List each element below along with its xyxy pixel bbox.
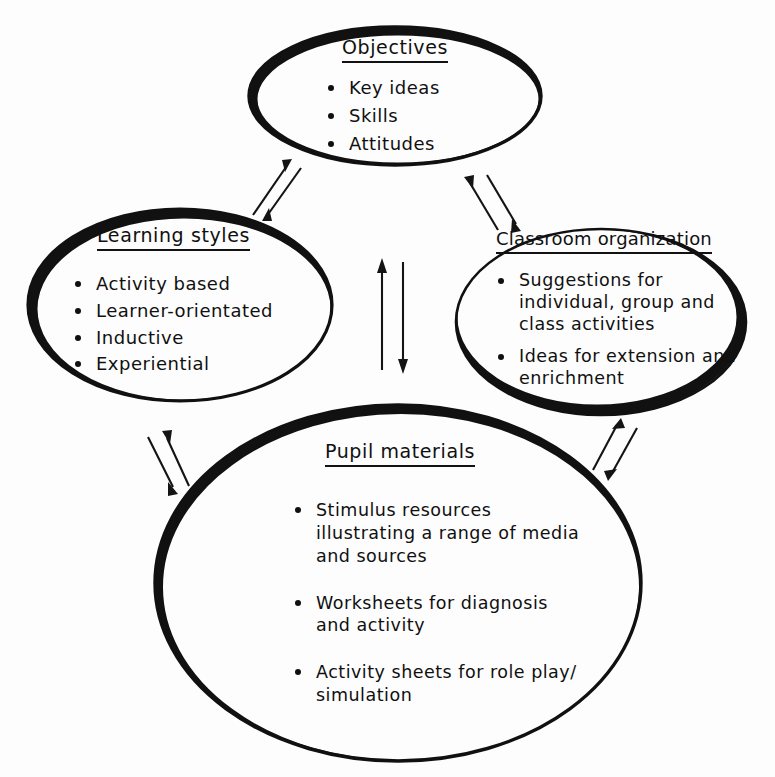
node-objectives-bullets: Key ideas Skills Attitudes — [326, 77, 540, 155]
list-item: Skills — [326, 105, 540, 128]
node-pupil-materials-title-row: Pupil materials — [215, 440, 585, 467]
node-objectives-title-row: Objectives — [250, 36, 540, 63]
list-item: Key ideas — [326, 77, 540, 100]
list-item: Activity sheets for role play/ simulatio… — [293, 661, 585, 707]
node-learning-styles-title-row: Learning styles — [35, 224, 387, 251]
node-classroom-organization[interactable]: Classroom organization Suggestions for i… — [466, 228, 746, 408]
node-pupil-materials-title: Pupil materials — [325, 440, 475, 467]
connector-classroom-pupil — [593, 418, 637, 481]
list-item: Worksheets for diagnosis and activity — [293, 592, 585, 638]
node-objectives-title: Objectives — [342, 36, 448, 63]
node-learning-styles[interactable]: Learning styles Activity based Learner-o… — [35, 222, 325, 392]
list-item: Suggestions for individual, group and cl… — [496, 270, 746, 336]
node-classroom-organization-title: Classroom organization — [496, 228, 712, 254]
node-classroom-organization-bullets: Suggestions for individual, group and cl… — [496, 270, 746, 389]
list-item: Experiential — [73, 353, 325, 376]
list-item: Inductive — [73, 327, 325, 350]
node-learning-styles-title: Learning styles — [97, 224, 250, 251]
list-item: Ideas for extension and enrichment — [496, 346, 746, 390]
list-item: Activity based — [73, 273, 325, 296]
diagram-canvas: Objectives Key ideas Skills Attitudes Le… — [0, 0, 775, 777]
connector-objectives-pupil — [377, 258, 408, 374]
node-classroom-organization-title-row: Classroom organization — [466, 228, 775, 254]
list-item: Attitudes — [326, 133, 540, 156]
node-pupil-materials-bullets: Stimulus resources illustrating a range … — [293, 499, 585, 706]
connector-classroom-objectives — [464, 175, 521, 233]
node-objectives[interactable]: Objectives Key ideas Skills Attitudes — [250, 34, 540, 164]
connector-learning-pupil — [148, 430, 189, 496]
list-item: Stimulus resources illustrating a range … — [293, 499, 585, 567]
connector-learning-objectives — [253, 159, 301, 221]
node-pupil-materials[interactable]: Pupil materials Stimulus resources illus… — [215, 440, 585, 710]
node-learning-styles-bullets: Activity based Learner-orientated Induct… — [73, 273, 325, 376]
list-item: Learner-orientated — [73, 300, 325, 323]
